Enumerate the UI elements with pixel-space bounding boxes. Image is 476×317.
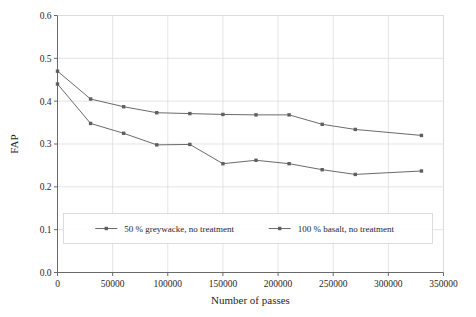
x-tick-label: 250000 — [319, 279, 348, 289]
series-data-point — [221, 113, 224, 116]
y-tick-label: 0.5 — [40, 54, 52, 64]
series-data-point — [188, 112, 191, 115]
data-series-layer — [56, 69, 423, 176]
series-data-point — [221, 162, 224, 165]
series-data-point — [320, 168, 323, 171]
series-polyline — [58, 84, 422, 174]
y-tick-label: 0.3 — [40, 139, 52, 149]
x-tick-label: 300000 — [374, 279, 403, 289]
series-data-point — [155, 111, 158, 114]
legend-entry-label: 100 % basalt, no treatment — [298, 224, 395, 234]
series-data-point — [354, 128, 357, 131]
series-data-point — [122, 105, 125, 108]
legend-marker-sample — [105, 227, 108, 230]
y-tick-label: 0.6 — [40, 11, 52, 21]
series-data-point — [420, 134, 423, 137]
x-tick-label: 150000 — [209, 279, 238, 289]
y-tick-label: 0.4 — [40, 97, 52, 107]
y-tick-label: 0.1 — [40, 225, 52, 235]
series-data-point — [56, 82, 59, 85]
chart-container: 0.00.10.20.30.40.50.6 050000100000150000… — [0, 0, 476, 317]
data-series — [56, 69, 423, 137]
y-axis-title: FAP — [8, 134, 20, 153]
series-data-point — [89, 97, 92, 100]
series-data-point — [56, 69, 59, 72]
x-axis-title: Number of passes — [211, 294, 290, 306]
y-tick-label: 0.2 — [40, 182, 52, 192]
series-data-point — [287, 113, 290, 116]
x-tick-label: 50000 — [101, 279, 125, 289]
y-axis-tick-labels: 0.00.10.20.30.40.50.6 — [40, 11, 52, 278]
series-data-point — [254, 113, 257, 116]
series-polyline — [58, 71, 422, 135]
series-data-point — [287, 162, 290, 165]
series-data-point — [89, 122, 92, 125]
data-series — [56, 82, 423, 176]
x-tick-label: 0 — [55, 279, 60, 289]
legend-entry-label: 50 % greywacke, no treatment — [124, 224, 234, 234]
chart-legend: 50 % greywacke, no treatment100 % basalt… — [64, 214, 433, 244]
series-data-point — [254, 159, 257, 162]
x-tick-label: 200000 — [264, 279, 293, 289]
x-tick-label: 100000 — [154, 279, 183, 289]
series-data-point — [420, 169, 423, 172]
y-tick-label: 0.0 — [40, 268, 52, 278]
x-axis-tick-labels: 0500001000001500002000002500003000003500… — [55, 279, 458, 289]
x-tick-label: 350000 — [429, 279, 458, 289]
series-data-point — [320, 123, 323, 126]
series-data-point — [155, 143, 158, 146]
series-data-point — [122, 132, 125, 135]
legend-marker-sample — [278, 227, 281, 230]
series-data-point — [354, 173, 357, 176]
series-data-point — [188, 143, 191, 146]
fap-vs-passes-line-chart: 0.00.10.20.30.40.50.6 050000100000150000… — [0, 0, 476, 317]
